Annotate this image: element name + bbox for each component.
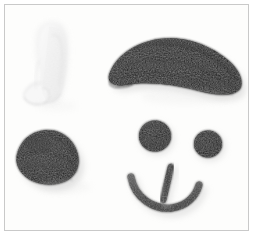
scene-title: Felt craft face pieces on white backgrou… [0,0,1,1]
photo-frame: Felt craft face pieces on white backgrou… [0,0,253,235]
photo-canvas [5,5,248,230]
